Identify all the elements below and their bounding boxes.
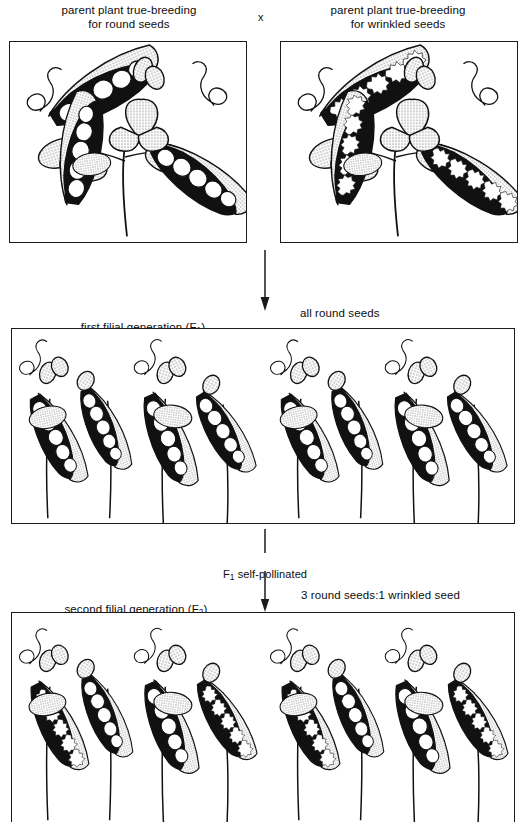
f1-generation-panel [11, 328, 515, 524]
f1-self-pollination-line [255, 529, 275, 553]
f1-illustration [12, 329, 514, 524]
cross-symbol: x [258, 11, 264, 23]
f2-result-label: 3 round seeds:1 wrinkled seed [301, 588, 521, 602]
parent-left-label: parent plant true-breeding for round see… [9, 3, 249, 32]
parent-wrinkled-panel [280, 41, 518, 243]
parent-right-label: parent plant true-breeding for wrinkled … [278, 3, 518, 32]
f1-result-label: all round seeds [300, 306, 490, 320]
cross-to-f1-arrow [255, 250, 275, 312]
parent-round-illustration [10, 42, 246, 242]
f2-illustration [12, 613, 514, 822]
parent-wrinkled-illustration [281, 42, 517, 242]
parent-round-panel [9, 41, 247, 243]
f2-generation-panel [11, 612, 515, 822]
f1-to-f2-arrow [255, 571, 275, 613]
